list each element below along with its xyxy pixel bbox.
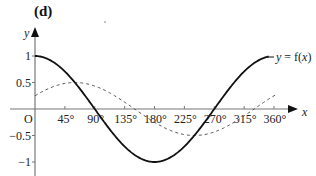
x-tick-label: 180°: [144, 112, 167, 126]
x-tick-label: 315°: [234, 112, 257, 126]
y-tick-label: −0.5: [9, 129, 31, 143]
y-tick-label: −1: [18, 155, 31, 169]
x-tick-label: 225°: [174, 112, 197, 126]
y-axis-arrow-icon: [31, 27, 39, 37]
x-axis-arrow-icon: [288, 105, 298, 113]
x-tick-label: 45°: [57, 112, 74, 126]
y-axis-label: y: [23, 26, 30, 40]
y-tick-label: 0.5: [16, 76, 31, 90]
y-tick-label: 1: [25, 49, 31, 63]
x-tick-label: 360°: [264, 112, 287, 126]
x-axis-label: x: [301, 105, 308, 119]
axes: [10, 27, 298, 176]
panel-label: (d): [34, 3, 52, 20]
chart: (d) y x O 10.5−0.5−1 45°90°135°180°225°2…: [0, 0, 316, 176]
x-tick-label: 135°: [114, 112, 137, 126]
curve-annotation: y = f(x): [275, 50, 311, 64]
origin-label: O: [24, 112, 33, 126]
